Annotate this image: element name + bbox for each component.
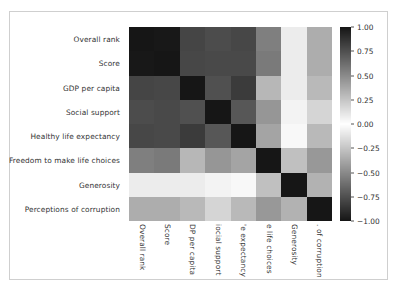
heatmap-cell (256, 173, 281, 197)
heatmap-cell (231, 27, 256, 51)
colorbar-tick (351, 221, 354, 222)
y-axis-tick-labels: Overall rankScoreGDP per capitaSocial su… (0, 27, 125, 221)
y-tick-label: Freedom to make life choices (9, 156, 120, 165)
colorbar-tick (351, 75, 354, 76)
heatmap-cell (231, 197, 256, 221)
heatmap-cell (180, 51, 205, 75)
heatmap-cell (256, 27, 281, 51)
x-axis-tick-labels: Overall rankScoreDP per capitaiocial sup… (129, 222, 332, 286)
heatmap-cell (307, 27, 332, 51)
heatmap-cell (180, 124, 205, 148)
heatmap-cell (256, 197, 281, 221)
heatmap-cell (180, 197, 205, 221)
heatmap-cell (129, 76, 154, 100)
heatmap-cell (307, 100, 332, 124)
heatmap-cell (180, 100, 205, 124)
heatmap-cell (307, 173, 332, 197)
colorbar-tick (351, 51, 354, 52)
y-tick-label: Perceptions of corruption (25, 204, 120, 213)
colorbar: 1.000.750.500.250.00−0.25−0.50−0.75−1.00 (340, 27, 392, 221)
y-tick-label: GDP per capita (63, 83, 120, 92)
colorbar-tick-label: 0.00 (357, 120, 373, 129)
heatmap-cell (154, 51, 179, 75)
figure-canvas: Overall rankScoreGDP per capitaSocial su… (0, 0, 409, 295)
heatmap-cell (231, 100, 256, 124)
colorbar-tick-label: −0.25 (357, 144, 380, 153)
heatmap-cell (205, 100, 230, 124)
y-tick-label: Score (99, 59, 120, 68)
heatmap-cell (256, 148, 281, 172)
colorbar-tick (351, 27, 354, 28)
heatmap-cell (281, 51, 306, 75)
heatmap-cell (307, 148, 332, 172)
colorbar-tick (351, 124, 354, 125)
heatmap-cell (205, 124, 230, 148)
heatmap-cell (231, 173, 256, 197)
y-tick-label: Overall rank (74, 35, 121, 44)
colorbar-gradient (340, 27, 351, 221)
heatmap-cell (307, 197, 332, 221)
heatmap-cell (281, 27, 306, 51)
colorbar-tick (351, 148, 354, 149)
colorbar-tick-label: −1.00 (357, 217, 380, 226)
heatmap-cell (129, 27, 154, 51)
heatmap-cell (129, 51, 154, 75)
heatmap-cell (205, 51, 230, 75)
heatmap-cell (281, 76, 306, 100)
heatmap-cell (256, 100, 281, 124)
colorbar-tick-label: −0.50 (357, 168, 380, 177)
x-tick-label: . of corruption (315, 224, 324, 278)
x-tick-label: iocial support (213, 224, 222, 275)
heatmap-cell (129, 173, 154, 197)
heatmap-cell (231, 124, 256, 148)
heatmap-cell (307, 51, 332, 75)
x-tick-label-slot: iocial support (205, 222, 230, 286)
colorbar-tick (351, 196, 354, 197)
heatmap-cell (180, 27, 205, 51)
heatmap-cell (281, 197, 306, 221)
x-tick-label: DP per capita (188, 224, 197, 275)
x-tick-label-slot: Score (154, 222, 179, 286)
heatmap-cell (231, 51, 256, 75)
x-tick-label: е life choices (264, 224, 273, 274)
heatmap-cell (129, 124, 154, 148)
heatmap-cell (256, 51, 281, 75)
x-tick-label-slot: DP per capita (180, 222, 205, 286)
colorbar-tick-label: 0.25 (357, 95, 373, 104)
x-tick-label: Overall rank (137, 224, 146, 271)
heatmap-cell (231, 148, 256, 172)
heatmap-cell (256, 76, 281, 100)
heatmap-plot-area (129, 27, 332, 221)
heatmap-cell (281, 173, 306, 197)
x-tick-label-slot: Generosity (281, 222, 306, 286)
heatmap-cell (307, 76, 332, 100)
heatmap-cell (154, 76, 179, 100)
heatmap-cell (129, 197, 154, 221)
heatmap-cell (256, 124, 281, 148)
heatmap-cell (205, 197, 230, 221)
colorbar-tick-label: 0.75 (357, 47, 373, 56)
y-tick-label: Generosity (79, 180, 120, 189)
heatmap-cell (180, 148, 205, 172)
x-tick-label-slot: 'e expectancy (231, 222, 256, 286)
heatmap-cell (180, 76, 205, 100)
heatmap-cell (205, 76, 230, 100)
heatmap-cell (180, 173, 205, 197)
x-tick-label: Score (163, 224, 172, 245)
colorbar-tick (351, 172, 354, 173)
x-tick-label-slot: . of corruption (307, 222, 332, 286)
x-tick-label-slot: е life choices (256, 222, 281, 286)
heatmap-cell (281, 100, 306, 124)
heatmap-cell (154, 173, 179, 197)
colorbar-tick-label: 0.50 (357, 71, 373, 80)
heatmap-cell (129, 100, 154, 124)
x-tick-label: Generosity (289, 224, 298, 265)
heatmap-cell (129, 148, 154, 172)
heatmap-grid (129, 27, 332, 221)
x-tick-label-slot: Overall rank (129, 222, 154, 286)
heatmap-cell (154, 100, 179, 124)
y-tick-label: Social support (66, 107, 120, 116)
heatmap-cell (154, 27, 179, 51)
heatmap-cell (281, 148, 306, 172)
heatmap-cell (281, 124, 306, 148)
